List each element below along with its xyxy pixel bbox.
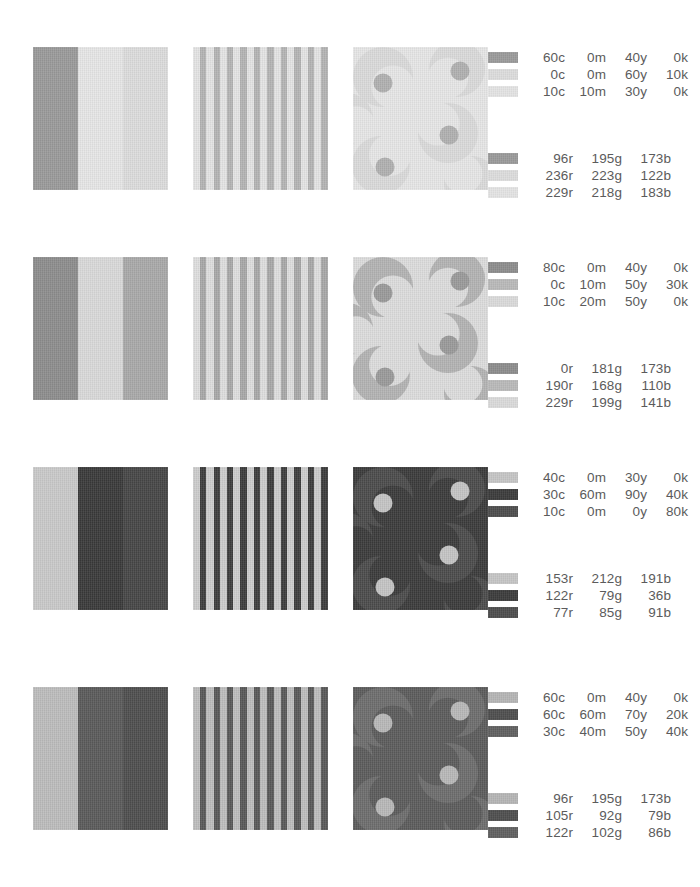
vertical-bands-block xyxy=(33,467,168,610)
cmyk-value-m: 20m xyxy=(565,294,606,309)
cmyk-value-c: 40c xyxy=(524,470,565,485)
legend: 40c0m30y0k30c60m90y40k10c0m0y80k153r212g… xyxy=(488,467,693,657)
color-band xyxy=(78,687,123,830)
color-swatch xyxy=(488,489,518,500)
cmyk-values: 60c0m40y0k xyxy=(524,690,688,705)
rgb-value-r: 122r xyxy=(524,588,573,603)
cmyk-legend-group: 40c0m30y0k30c60m90y40k10c0m0y80k xyxy=(488,469,693,520)
rgb-value-r: 122r xyxy=(524,825,573,840)
stripe-light xyxy=(206,257,213,400)
rgb-value-g: 85g xyxy=(573,605,622,620)
stripe-dark xyxy=(321,467,327,610)
cmyk-legend-row: 60c0m40y0k xyxy=(488,689,693,706)
cmyk-values: 0c10m50y30k xyxy=(524,277,688,292)
swirl-graphic xyxy=(353,257,488,400)
cmyk-value-y: 50y xyxy=(606,277,647,292)
stripe-light xyxy=(206,467,213,610)
scan-texture-overlay xyxy=(488,590,518,601)
cmyk-value-c: 80c xyxy=(524,260,565,275)
color-swatch xyxy=(488,86,518,97)
rgb-value-g: 212g xyxy=(573,571,622,586)
legend: 60c0m40y0k0c0m60y10k10c10m30y0k96r195g17… xyxy=(488,47,693,237)
cmyk-value-c: 0c xyxy=(524,277,565,292)
rgb-legend-row: 122r102g86b xyxy=(488,824,693,841)
cmyk-values: 30c60m90y40k xyxy=(524,487,688,502)
color-band xyxy=(123,47,168,190)
rgb-values: 229r218g183b xyxy=(524,185,671,200)
cmyk-value-y: 70y xyxy=(606,707,647,722)
center-dot xyxy=(440,546,459,565)
scan-texture-overlay xyxy=(488,692,518,703)
color-band xyxy=(78,257,123,400)
vertical-bands-block xyxy=(33,257,168,400)
cmyk-value-c: 30c xyxy=(524,724,565,739)
cmyk-value-m: 0m xyxy=(565,504,606,519)
color-swatch xyxy=(488,262,518,273)
rgb-value-r: 96r xyxy=(524,151,573,166)
color-swatch xyxy=(488,709,518,720)
cmyk-legend-group: 60c0m40y0k60c60m70y20k30c40m50y40k xyxy=(488,689,693,740)
scan-texture-overlay xyxy=(488,472,518,483)
rgb-values: 153r212g191b xyxy=(524,571,671,586)
scan-texture-overlay xyxy=(488,187,518,198)
cmyk-legend-group: 60c0m40y0k0c0m60y10k10c10m30y0k xyxy=(488,49,693,100)
cmyk-value-k: 40k xyxy=(647,487,688,502)
legend: 60c0m40y0k60c60m70y20k30c40m50y40k96r195… xyxy=(488,687,693,877)
cmyk-legend-row: 0c10m50y30k xyxy=(488,276,693,293)
cmyk-value-k: 0k xyxy=(647,470,688,485)
center-dot xyxy=(376,798,395,817)
rgb-value-r: 96r xyxy=(524,791,573,806)
rgb-value-b: 36b xyxy=(622,588,671,603)
color-band xyxy=(123,467,168,610)
stripe-group xyxy=(193,687,328,830)
scan-texture-overlay xyxy=(488,810,518,821)
scan-texture-overlay xyxy=(488,397,518,408)
cmyk-value-m: 60m xyxy=(565,487,606,502)
rgb-values: 105r92g79b xyxy=(524,808,671,823)
swirl-pattern-block xyxy=(353,467,488,610)
stripe-light xyxy=(314,257,321,400)
stripe-light xyxy=(247,467,254,610)
scan-texture-overlay xyxy=(488,793,518,804)
scan-texture-overlay xyxy=(488,279,518,290)
stripe-light xyxy=(260,47,267,190)
rgb-legend-row: 229r199g141b xyxy=(488,394,693,411)
color-swatch xyxy=(488,153,518,164)
swirl-graphic xyxy=(353,47,488,190)
stripe-light xyxy=(247,257,254,400)
rgb-legend-group: 96r195g173b105r92g79b122r102g86b xyxy=(488,790,693,841)
vertical-stripes-block xyxy=(193,47,328,190)
rgb-legend-row: 96r195g173b xyxy=(488,790,693,807)
vertical-bands-block xyxy=(33,687,168,830)
rgb-values: 77r85g91b xyxy=(524,605,671,620)
swirl-graphic xyxy=(353,687,488,830)
rgb-values: 122r102g86b xyxy=(524,825,671,840)
color-band xyxy=(33,687,78,830)
color-swatch xyxy=(488,472,518,483)
cmyk-values: 10c0m0y80k xyxy=(524,504,688,519)
stripe-light xyxy=(274,47,281,190)
scan-texture-overlay xyxy=(488,262,518,273)
stripe-light xyxy=(301,47,308,190)
stripe-light xyxy=(274,467,281,610)
center-dot xyxy=(376,158,395,177)
cmyk-value-k: 0k xyxy=(647,294,688,309)
cmyk-value-c: 10c xyxy=(524,84,565,99)
swirl-graphic xyxy=(353,467,488,610)
cmyk-value-y: 50y xyxy=(606,724,647,739)
stripe-light xyxy=(193,467,200,610)
rgb-legend-row: 122r79g36b xyxy=(488,587,693,604)
scan-texture-overlay xyxy=(488,827,518,838)
scan-texture-overlay xyxy=(488,380,518,391)
swirl-pattern-block xyxy=(353,687,488,830)
rgb-legend-row: 105r92g79b xyxy=(488,807,693,824)
color-band xyxy=(123,257,168,400)
cmyk-value-y: 30y xyxy=(606,84,647,99)
stripe-light xyxy=(193,47,200,190)
center-dot xyxy=(376,368,395,387)
cmyk-value-c: 30c xyxy=(524,487,565,502)
cmyk-values: 10c20m50y0k xyxy=(524,294,688,309)
cmyk-legend-row: 60c0m40y0k xyxy=(488,49,693,66)
scan-texture-overlay xyxy=(488,363,518,374)
color-swatch xyxy=(488,793,518,804)
